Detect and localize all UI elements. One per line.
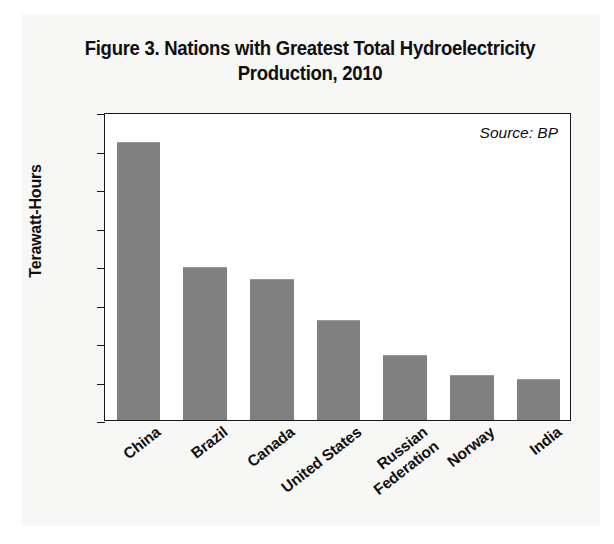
bar <box>450 375 494 420</box>
bar <box>317 320 361 420</box>
y-axis-tick <box>97 384 105 385</box>
bar-series <box>105 114 570 420</box>
y-axis-title: Terawatt-Hours <box>27 141 45 301</box>
bar <box>250 279 294 420</box>
y-axis-tick <box>97 153 105 154</box>
bar <box>517 379 561 420</box>
x-axis-label-line: India <box>526 423 564 458</box>
y-axis-tick <box>97 268 105 269</box>
y-axis-tick <box>97 307 105 308</box>
x-axis-label-line: Norway <box>444 423 498 470</box>
x-axis-label-line: Brazil <box>188 423 231 462</box>
chart-title: Figure 3. Nations with Greatest Total Hy… <box>54 36 567 86</box>
bar <box>183 267 227 420</box>
chart-title-line-1: Figure 3. Nations with Greatest Total Hy… <box>54 36 567 61</box>
y-axis-tick <box>97 345 105 346</box>
x-axis-label-line: China <box>120 423 164 462</box>
bar <box>383 355 427 420</box>
y-axis-tick <box>97 114 105 115</box>
x-axis-label-line: Canada <box>244 423 298 470</box>
y-axis-tick <box>97 230 105 231</box>
y-axis-tick <box>97 191 105 192</box>
figure-container: Figure 3. Nations with Greatest Total Hy… <box>0 0 614 544</box>
bar <box>117 142 161 420</box>
x-axis-labels: ChinaBrazilCanadaUnited StatesRussianFed… <box>104 423 571 538</box>
chart-title-line-2: Production, 2010 <box>54 61 567 86</box>
plot-inner: Source: BP 8007006005004003002001000 <box>105 114 570 420</box>
plot-area: Source: BP 8007006005004003002001000 <box>104 113 571 421</box>
